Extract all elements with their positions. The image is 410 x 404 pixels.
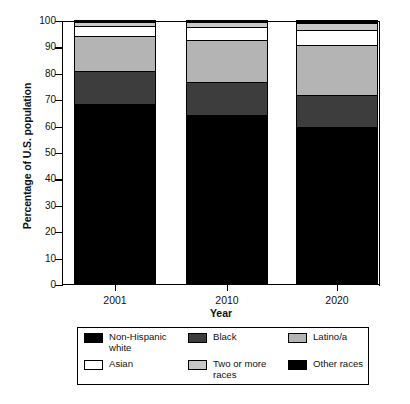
- y-tick-label: 60: [23, 122, 56, 132]
- y-tick: [55, 232, 63, 233]
- bar-segment-latino-a[interactable]: [187, 40, 267, 83]
- bar-segment-asian[interactable]: [75, 26, 155, 36]
- legend-item[interactable]: Other races: [288, 358, 376, 385]
- x-axis-title: Year: [62, 307, 380, 319]
- y-tick-label: 30: [23, 201, 56, 211]
- y-tick-label: 0: [23, 280, 56, 290]
- stacked-bar-chart: Percentage of U.S. population 0102030405…: [0, 0, 410, 404]
- legend-swatch-icon: [84, 360, 103, 370]
- y-tick: [55, 100, 63, 101]
- bar-segment-asian[interactable]: [187, 27, 267, 40]
- legend-item[interactable]: Asian: [84, 358, 188, 385]
- legend-swatch-icon: [288, 333, 307, 343]
- y-tick: [55, 179, 63, 180]
- y-tick: [55, 21, 63, 22]
- bar-segment-asian[interactable]: [297, 30, 377, 45]
- x-tick: [227, 284, 228, 291]
- y-tick-label: 90: [23, 42, 56, 52]
- y-tick: [55, 127, 63, 128]
- y-tick-label: 80: [23, 69, 56, 79]
- bar-segment-non-hispanic-white[interactable]: [187, 115, 267, 284]
- legend-label: Latino/a: [313, 331, 347, 342]
- y-tick: [55, 285, 63, 286]
- bar-segment-two-or-more-races[interactable]: [297, 23, 377, 30]
- x-tick: [115, 284, 116, 291]
- y-tick: [55, 259, 63, 260]
- y-tick: [55, 47, 63, 48]
- x-tick-label-2001: 2001: [70, 294, 160, 306]
- bar-segment-non-hispanic-white[interactable]: [75, 104, 155, 284]
- legend: Non-Hispanic whiteBlackLatino/aAsianTwo …: [77, 327, 369, 385]
- legend-label: Two or more races: [213, 358, 266, 380]
- y-tick: [55, 206, 63, 207]
- legend-item[interactable]: Black: [188, 331, 288, 358]
- y-tick-label: 10: [23, 254, 56, 264]
- bar-segment-latino-a[interactable]: [297, 45, 377, 95]
- bar-segment-black[interactable]: [187, 82, 267, 115]
- legend-swatch-icon: [188, 333, 207, 343]
- y-tick-label: 20: [23, 227, 56, 237]
- legend-item[interactable]: Non-Hispanic white: [84, 331, 188, 358]
- legend-label: Asian: [109, 358, 133, 369]
- legend-item[interactable]: Two or more races: [188, 358, 288, 385]
- x-tick-label-2010: 2010: [182, 294, 272, 306]
- x-tick-label-2020: 2020: [292, 294, 382, 306]
- legend-entries: Non-Hispanic whiteBlackLatino/aAsianTwo …: [78, 328, 368, 384]
- legend-swatch-icon: [288, 360, 307, 370]
- legend-label: Black: [213, 331, 236, 342]
- legend-label: Non-Hispanic white: [109, 331, 167, 353]
- bar-segment-latino-a[interactable]: [75, 36, 155, 71]
- legend-swatch-icon: [84, 333, 103, 343]
- y-tick: [55, 153, 63, 154]
- bar-segment-black[interactable]: [75, 71, 155, 103]
- y-tick: [55, 74, 63, 75]
- legend-swatch-icon: [188, 360, 207, 370]
- y-tick-label: 50: [23, 148, 56, 158]
- y-tick-label: 70: [23, 95, 56, 105]
- bar-2010[interactable]: [186, 20, 268, 284]
- legend-item[interactable]: Latino/a: [288, 331, 376, 358]
- legend-label: Other races: [313, 358, 363, 369]
- plot-area: 0102030405060708090100 200120102020: [62, 21, 380, 285]
- y-tick-label: 40: [23, 174, 56, 184]
- y-tick-label: 100: [23, 16, 56, 26]
- bar-segment-non-hispanic-white[interactable]: [297, 127, 377, 284]
- bar-segment-black[interactable]: [297, 95, 377, 127]
- bar-2020[interactable]: [296, 20, 378, 284]
- x-tick: [337, 284, 338, 291]
- bar-2001[interactable]: [74, 20, 156, 284]
